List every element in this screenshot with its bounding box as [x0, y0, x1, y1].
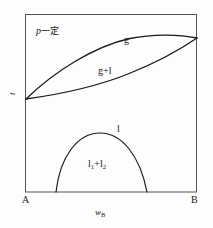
liquid-subscript-1: 1: [91, 163, 95, 171]
dew-curve: [26, 35, 197, 99]
region-label-gas-liquid: g+l: [98, 66, 111, 76]
region-label-liquid-liquid: l1+l2: [88, 159, 106, 169]
x-axis-subscript: B: [101, 211, 105, 218]
constant-pressure-label: p一定: [36, 26, 59, 36]
liquid-subscript-2: 2: [103, 163, 107, 171]
constant-text: 一定: [41, 26, 59, 36]
phase-diagram-plot: [0, 0, 213, 228]
liquid-plus-symbol: +l: [94, 158, 102, 169]
x-axis-endpoint-a: A: [22, 195, 29, 205]
x-axis-endpoint-b: B: [191, 195, 198, 205]
bubble-curve: [26, 38, 197, 99]
region-label-liquid: l: [117, 124, 120, 134]
phase-diagram-figure: p一定 g g+l l l1+l2 t wB A B: [0, 0, 213, 228]
x-axis-label: wB: [95, 208, 105, 217]
region-label-gas: g: [124, 35, 129, 45]
y-axis-label: t: [8, 92, 17, 95]
plot-frame: [26, 15, 197, 193]
